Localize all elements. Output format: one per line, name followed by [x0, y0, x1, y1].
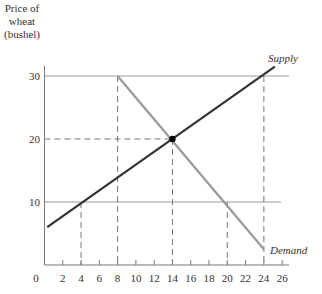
x-tick-label: 26 [277, 272, 289, 284]
y-tick-label: 20 [29, 133, 41, 145]
x-tick-label: 18 [204, 272, 216, 284]
x-tick-label: 24 [258, 272, 270, 284]
x-tick-label: 2 [60, 272, 66, 284]
x-tick-label: 22 [240, 272, 251, 284]
x-tick-label: 20 [222, 272, 234, 284]
supply-label: Supply [268, 52, 298, 64]
x-tick-label: 4 [78, 272, 84, 284]
demand-label: Demand [269, 244, 308, 256]
y-axis-label: Price of [5, 2, 40, 14]
x-tick-label: 6 [97, 272, 103, 284]
x-tick-label: 12 [149, 272, 160, 284]
y-axis-label: (bushel) [4, 28, 40, 41]
x-tick-label: 8 [115, 272, 121, 284]
y-tick-label: 30 [29, 70, 41, 82]
supply-curve [47, 67, 275, 228]
x-tick-label: 16 [185, 272, 197, 284]
y-axis-label: wheat [9, 15, 35, 27]
equilibrium-point [169, 136, 175, 142]
supply-demand-chart: 02468101214161820222426102030Price ofwhe… [0, 0, 322, 294]
x-tick-label: 0 [33, 272, 39, 284]
x-tick-label: 10 [130, 272, 142, 284]
x-tick-label: 14 [167, 272, 179, 284]
y-tick-label: 10 [29, 196, 41, 208]
